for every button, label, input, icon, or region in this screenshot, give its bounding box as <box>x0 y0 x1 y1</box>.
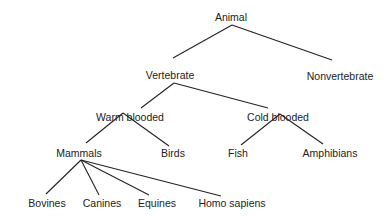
node-bovines: Bovines <box>28 198 65 209</box>
node-canines: Canines <box>83 198 122 209</box>
node-vertebrate: Vertebrate <box>146 70 194 81</box>
node-fish: Fish <box>228 148 248 159</box>
edge-vertebrate-cold <box>174 83 268 108</box>
tree-edges <box>0 0 386 219</box>
node-homo: Homo sapiens <box>198 198 265 209</box>
edge-mammals-bovines <box>46 160 81 194</box>
edge-mammals-homo <box>81 160 221 196</box>
node-warm: Warm blooded <box>96 112 164 123</box>
node-amphibians: Amphibians <box>303 148 358 159</box>
edge-vertebrate-warm <box>141 83 174 108</box>
node-animal: Animal <box>215 12 247 23</box>
edge-animal-vertebrate <box>173 25 232 58</box>
node-birds: Birds <box>161 148 185 159</box>
edge-animal-nonvertebrate <box>232 25 332 60</box>
node-cold: Cold blooded <box>247 112 309 123</box>
node-mammals: Mammals <box>56 148 102 159</box>
taxonomy-tree-diagram: AnimalVertebrateNonvertebrateWarm bloode… <box>0 0 386 219</box>
node-equines: Equines <box>138 198 176 209</box>
edge-mammals-equines <box>81 160 149 195</box>
node-nonvertebrate: Nonvertebrate <box>307 71 374 82</box>
